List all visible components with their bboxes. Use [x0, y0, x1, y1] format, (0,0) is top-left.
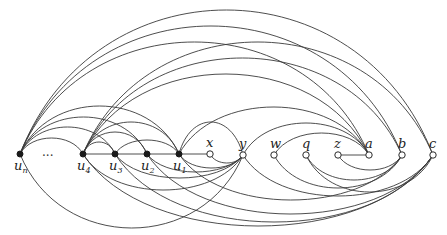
- vertex-w: [271, 152, 277, 158]
- vertex-label-q: q: [302, 136, 310, 151]
- graph-canvas: unu4u3u2u1xywqzabc ···: [0, 0, 447, 235]
- edge-un-c: [20, 10, 433, 155]
- vertex-label-z: z: [333, 136, 341, 151]
- vertex-label-u4: u4: [77, 158, 90, 175]
- edge-u3-c: [115, 154, 433, 222]
- vertex-label-un: un: [14, 158, 28, 175]
- vertex-u3: [112, 151, 118, 157]
- edge-un-u2: [20, 117, 147, 154]
- vertex-u2: [144, 151, 150, 157]
- vertex-z: [335, 152, 341, 158]
- vertex-u1: [176, 151, 182, 157]
- edge-layer: [20, 10, 433, 228]
- graph-figure: unu4u3u2u1xywqzabc ···: [0, 0, 447, 235]
- ellipsis-label: ···: [42, 149, 53, 163]
- edge-u4-a: [83, 74, 369, 155]
- vertex-x: [207, 151, 213, 157]
- vertex-un: [17, 151, 23, 157]
- vertex-q: [303, 152, 309, 158]
- vertex-b: [399, 152, 405, 158]
- vertex-label-b: b: [398, 136, 406, 151]
- edge-w-b: [274, 155, 402, 188]
- vertex-label-u2: u2: [141, 158, 154, 175]
- vertex-label-c: c: [429, 136, 437, 151]
- edge-y-c: [243, 155, 433, 196]
- vertex-label-x: x: [206, 135, 214, 150]
- vertex-label-a: a: [365, 136, 373, 151]
- vertex-label-w: w: [270, 136, 281, 151]
- edge-u4-y: [83, 154, 243, 190]
- vertex-u4: [80, 151, 86, 157]
- vertex-y: [240, 152, 246, 158]
- edge-un-y: [20, 154, 243, 228]
- vertex-a: [366, 152, 372, 158]
- vertex-c: [430, 152, 436, 158]
- vertex-label-y: y: [238, 136, 247, 151]
